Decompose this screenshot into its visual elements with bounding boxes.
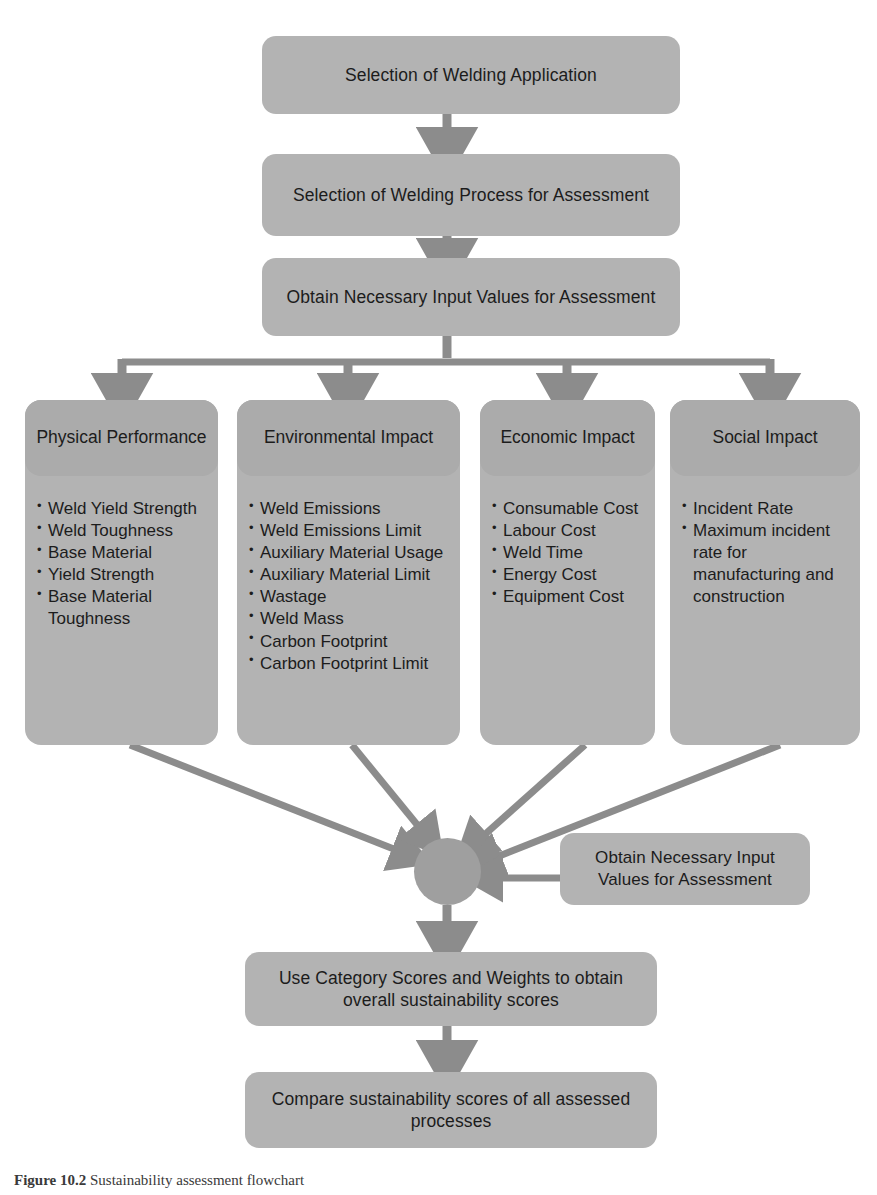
list-item: Labour Cost: [492, 520, 645, 542]
process-box-obtain-inputs[interactable]: Obtain Necessary Input Values for Assess…: [262, 258, 680, 336]
list-item: Auxiliary Material Usage: [249, 542, 450, 564]
category-panel-physical-performance-title: Physical Performance: [36, 427, 206, 448]
figure-caption: Figure 10.2 Sustainability assessment fl…: [14, 1172, 304, 1189]
category-panel-social-impact-title: Social Impact: [712, 427, 817, 448]
aggregation-hub-node[interactable]: [414, 838, 481, 905]
arrow-physical-hub: [130, 745, 409, 855]
process-box-selection-application[interactable]: Selection of Welding Application: [262, 36, 680, 114]
figure-caption-text: Sustainability assessment flowchart: [90, 1172, 304, 1188]
process-box-selection-application-label: Selection of Welding Application: [345, 64, 597, 86]
process-box-category-scores[interactable]: Use Category Scores and Weights to obtai…: [245, 952, 657, 1026]
figure-caption-number: Figure 10.2: [14, 1172, 86, 1188]
process-box-compare-scores[interactable]: Compare sustainability scores of all ass…: [245, 1072, 657, 1148]
list-item: Base Material: [37, 542, 208, 564]
list-item: Auxiliary Material Limit: [249, 564, 450, 586]
list-item: Yield Strength: [37, 564, 208, 586]
process-box-selection-process[interactable]: Selection of Welding Process for Assessm…: [262, 154, 680, 236]
list-item: Equipment Cost: [492, 586, 645, 608]
list-item: Weld Mass: [249, 608, 450, 630]
list-item: Weld Toughness: [37, 520, 208, 542]
list-item: Wastage: [249, 586, 450, 608]
category-panel-environmental-impact-header: Environmental Impact: [237, 400, 460, 476]
process-box-category-scores-label: Use Category Scores and Weights to obtai…: [259, 967, 643, 1012]
list-item: Consumable Cost: [492, 498, 645, 520]
category-panel-physical-performance-header: Physical Performance: [25, 400, 218, 476]
list-item: Weld Yield Strength: [37, 498, 208, 520]
list-item: Maximum incident rate for manufacturing …: [682, 520, 850, 608]
category-panel-environmental-impact[interactable]: Environmental Impact Weld Emissions Weld…: [237, 400, 460, 745]
list-item: Carbon Footprint: [249, 631, 450, 653]
process-box-compare-scores-label: Compare sustainability scores of all ass…: [259, 1088, 643, 1133]
category-panel-social-impact-list: Incident Rate Maximum incident rate for …: [670, 498, 860, 608]
category-panel-environmental-impact-title: Environmental Impact: [264, 427, 433, 448]
category-panel-economic-impact-header: Economic Impact: [480, 400, 655, 476]
flowchart-canvas: Selection of Welding Application Selecti…: [0, 0, 877, 1195]
category-panel-social-impact[interactable]: Social Impact Incident Rate Maximum inci…: [670, 400, 860, 745]
process-box-obtain-inputs-label: Obtain Necessary Input Values for Assess…: [287, 286, 656, 308]
arrow-environmental-hub: [352, 745, 428, 838]
process-box-side-obtain-inputs-label: Obtain Necessary Input Values for Assess…: [574, 847, 796, 891]
list-item: Incident Rate: [682, 498, 850, 520]
arrow-economic-hub: [473, 745, 585, 845]
process-box-selection-process-label: Selection of Welding Process for Assessm…: [293, 184, 649, 206]
process-box-side-obtain-inputs[interactable]: Obtain Necessary Input Values for Assess…: [560, 833, 810, 905]
category-panel-environmental-impact-list: Weld Emissions Weld Emissions Limit Auxi…: [237, 498, 460, 675]
list-item: Energy Cost: [492, 564, 645, 586]
list-item: Carbon Footprint Limit: [249, 653, 450, 675]
list-item: Base Material Toughness: [37, 586, 208, 630]
category-panel-physical-performance-list: Weld Yield Strength Weld Toughness Base …: [25, 498, 218, 631]
category-panel-economic-impact[interactable]: Economic Impact Consumable Cost Labour C…: [480, 400, 655, 745]
list-item: Weld Emissions: [249, 498, 450, 520]
list-item: Weld Emissions Limit: [249, 520, 450, 542]
category-panel-social-impact-header: Social Impact: [670, 400, 860, 476]
category-panel-economic-impact-list: Consumable Cost Labour Cost Weld Time En…: [480, 498, 655, 608]
list-item: Weld Time: [492, 542, 645, 564]
category-panel-economic-impact-title: Economic Impact: [500, 427, 634, 448]
category-panel-physical-performance[interactable]: Physical Performance Weld Yield Strength…: [25, 400, 218, 745]
